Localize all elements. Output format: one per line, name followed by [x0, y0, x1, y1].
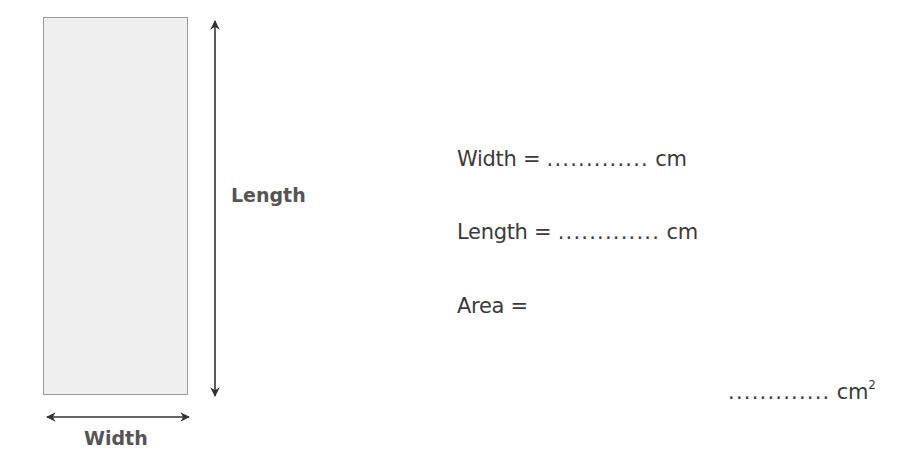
length-answer-line: Length = ............. cm: [457, 220, 698, 244]
length-answer-label: Length =: [457, 220, 551, 244]
length-label: Length: [231, 184, 306, 206]
area-answer-line: ............. cm2: [728, 380, 876, 404]
area-answer-label: Area =: [457, 294, 528, 318]
area-unit-superscript: 2: [868, 378, 875, 392]
width-label: Width: [84, 427, 148, 449]
width-unit: cm: [655, 147, 686, 171]
width-answer-line: Width = ............. cm: [457, 147, 687, 171]
length-answer-blank[interactable]: .............: [558, 220, 660, 244]
area-answer-label-line: Area =: [457, 294, 528, 318]
area-unit: cm2: [837, 380, 876, 404]
width-answer-label: Width =: [457, 147, 540, 171]
length-unit: cm: [666, 220, 697, 244]
area-answer-blank[interactable]: .............: [728, 380, 830, 404]
width-answer-blank[interactable]: .............: [547, 147, 649, 171]
